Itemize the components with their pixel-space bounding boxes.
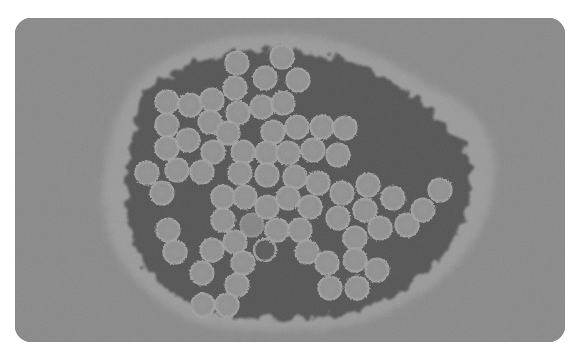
grain-overlay	[15, 18, 565, 342]
micrograph-canvas	[15, 18, 565, 342]
micrograph-image: Electron micrograph of a cluster of sphe…	[15, 18, 565, 342]
